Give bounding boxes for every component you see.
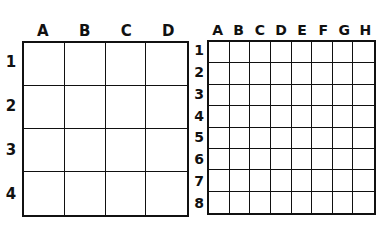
grid-cell — [209, 149, 230, 170]
grid-cell — [209, 170, 230, 191]
grid-cell — [230, 128, 251, 149]
grid-cell — [271, 63, 292, 84]
row-label: 2 — [4, 99, 18, 114]
grid-cell — [24, 172, 65, 215]
grid-cell — [106, 43, 147, 86]
grid-cell — [250, 63, 271, 84]
grid-cell — [24, 43, 65, 86]
grid-cell — [230, 42, 251, 63]
coarse-grid — [22, 41, 189, 217]
column-label: E — [293, 23, 311, 37]
grid-cell — [292, 128, 313, 149]
grid-cell — [230, 149, 251, 170]
grid-cell — [353, 128, 374, 149]
grid-cell — [271, 106, 292, 127]
grid-cell — [230, 106, 251, 127]
row-label: 1 — [192, 43, 206, 57]
grid-cell — [106, 86, 147, 129]
grid-cell — [230, 63, 251, 84]
grid-cell — [106, 129, 147, 172]
column-label: A — [33, 24, 53, 39]
grid-cell — [312, 85, 333, 106]
grid-cell — [230, 85, 251, 106]
grid-cell — [333, 170, 354, 191]
grid-cell — [333, 128, 354, 149]
row-label: 4 — [4, 187, 18, 202]
grid-cell — [292, 85, 313, 106]
grid-cell — [292, 42, 313, 63]
grid-cell — [24, 129, 65, 172]
row-label: 3 — [192, 87, 206, 101]
grid-cell — [312, 42, 333, 63]
grid-cell — [146, 86, 187, 129]
grid-cell — [250, 149, 271, 170]
column-label: G — [335, 23, 353, 37]
column-label: A — [209, 23, 227, 37]
grid-cell — [146, 129, 187, 172]
column-label: B — [75, 24, 95, 39]
grid-cell — [65, 129, 106, 172]
grid-cell — [209, 42, 230, 63]
column-label: D — [158, 24, 178, 39]
column-label: F — [314, 23, 332, 37]
grid-cell — [65, 43, 106, 86]
grid-cell — [250, 42, 271, 63]
grid-cell — [230, 170, 251, 191]
row-label: 8 — [192, 196, 206, 210]
grid-cell — [353, 85, 374, 106]
fine-grid — [207, 40, 376, 215]
grid-cell — [250, 170, 271, 191]
row-label: 4 — [192, 109, 206, 123]
row-label: 6 — [192, 152, 206, 166]
grid-cell — [312, 170, 333, 191]
grid-cell — [209, 85, 230, 106]
grid-cell — [271, 149, 292, 170]
grid-cell — [209, 128, 230, 149]
grid-cell — [271, 85, 292, 106]
grid-cell — [312, 192, 333, 213]
grid-cell — [333, 106, 354, 127]
grid-cell — [65, 172, 106, 215]
column-label: H — [356, 23, 374, 37]
grid-cell — [106, 172, 147, 215]
grid-cell — [312, 63, 333, 84]
grid-cell — [146, 172, 187, 215]
grid-cell — [250, 128, 271, 149]
column-label: B — [230, 23, 248, 37]
grid-cell — [146, 43, 187, 86]
row-label: 3 — [4, 143, 18, 158]
grid-cell — [209, 106, 230, 127]
grid-cell — [312, 128, 333, 149]
grid-cell — [271, 42, 292, 63]
grid-cell — [209, 192, 230, 213]
grid-cell — [333, 63, 354, 84]
column-label: C — [116, 24, 136, 39]
grid-cell — [312, 149, 333, 170]
grid-cell — [333, 42, 354, 63]
grid-cell — [333, 192, 354, 213]
grid-cell — [65, 86, 106, 129]
grid-cell — [353, 192, 374, 213]
grid-cell — [250, 192, 271, 213]
column-label: C — [251, 23, 269, 37]
grid-cell — [209, 63, 230, 84]
grid-cell — [250, 85, 271, 106]
row-label: 7 — [192, 174, 206, 188]
grid-cell — [292, 170, 313, 191]
grid-cell — [271, 128, 292, 149]
grid-cell — [292, 63, 313, 84]
grid-cell — [292, 149, 313, 170]
column-label: D — [272, 23, 290, 37]
grid-cell — [353, 170, 374, 191]
grid-cell — [24, 86, 65, 129]
row-label: 1 — [4, 55, 18, 70]
grid-cell — [292, 106, 313, 127]
grid-cell — [271, 192, 292, 213]
grid-cell — [292, 192, 313, 213]
grid-cell — [312, 106, 333, 127]
grid-cell — [271, 170, 292, 191]
grid-cell — [230, 192, 251, 213]
grid-cell — [353, 149, 374, 170]
grid-cell — [353, 42, 374, 63]
row-label: 2 — [192, 65, 206, 79]
